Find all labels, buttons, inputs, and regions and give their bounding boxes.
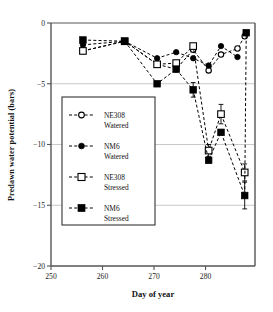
x-axis-title: Day of year <box>132 289 175 299</box>
y-tick-label: −15 <box>33 201 45 210</box>
data-point-filled-square <box>190 87 197 94</box>
chart-figure: 0−5−10−15−20250260270280 NE308WateredNM6… <box>0 0 273 312</box>
y-tick-label: −10 <box>33 140 45 149</box>
data-point-open-square <box>78 174 85 181</box>
y-tick-label: −20 <box>33 262 45 271</box>
data-point-filled-circle <box>235 54 240 59</box>
data-point-filled-square <box>205 157 212 164</box>
legend-label-genotype: NE308 <box>104 111 125 120</box>
data-point-filled-square <box>78 205 85 212</box>
data-point-filled-circle <box>218 43 223 48</box>
data-point-filled-square <box>241 192 248 199</box>
x-tick-label: 270 <box>148 272 160 281</box>
y-tick-label: −5 <box>37 80 45 89</box>
data-point-filled-circle <box>206 63 211 68</box>
data-point-open-square <box>190 43 197 50</box>
data-point-filled-circle <box>154 56 159 61</box>
predawn-water-potential-chart: 0−5−10−15−20250260270280 NE308WateredNM6… <box>0 0 273 312</box>
x-tick-label: 280 <box>200 272 212 281</box>
legend-label-treatment: Watered <box>104 121 129 130</box>
legend-label-treatment: Watered <box>104 152 129 161</box>
x-tick-label: 250 <box>45 272 57 281</box>
data-point-open-square <box>80 48 87 55</box>
legend-label-genotype: NM6 <box>104 204 120 213</box>
data-point-open-square <box>154 61 161 68</box>
data-point-filled-square <box>243 29 250 36</box>
x-tick-label: 260 <box>97 272 109 281</box>
data-point-filled-square <box>173 66 180 73</box>
data-point-filled-circle <box>173 49 178 54</box>
y-axis-title: Predawn water potential (bars) <box>7 89 16 201</box>
legend-label-genotype: NM6 <box>104 142 120 151</box>
chart-legend: NE308WateredNM6WateredNE308StressedNM6St… <box>62 97 155 225</box>
legend-label-treatment: Stressed <box>104 214 129 223</box>
data-point-filled-square <box>121 38 128 45</box>
legend-label-genotype: NE308 <box>104 173 125 182</box>
data-point-filled-square <box>218 129 225 136</box>
data-point-open-circle <box>79 112 85 118</box>
data-point-filled-circle <box>79 143 85 149</box>
data-point-open-square <box>173 60 180 67</box>
y-tick-label: 0 <box>41 19 45 28</box>
legend-label-treatment: Stressed <box>104 183 129 192</box>
data-point-open-circle <box>235 46 240 51</box>
data-point-open-square <box>218 111 225 118</box>
data-point-open-circle <box>218 52 223 57</box>
data-point-filled-square <box>80 37 87 44</box>
data-point-filled-square <box>154 80 161 87</box>
